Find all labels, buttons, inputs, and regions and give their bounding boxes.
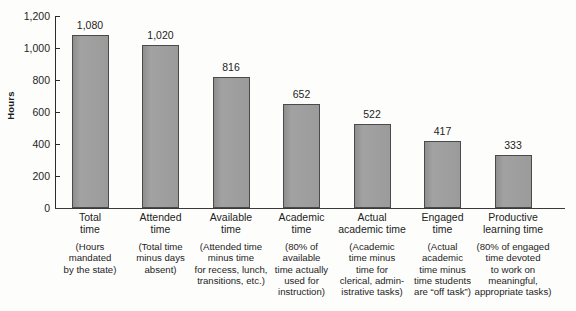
bar [213, 77, 250, 208]
plot-area: 1,0801,020816652522417333 [56, 0, 566, 208]
bar [283, 104, 320, 208]
bar [354, 124, 391, 208]
bar-value-label: 522 [363, 108, 381, 120]
bar-value-label: 333 [504, 139, 522, 151]
bar-value-label: 1,020 [147, 29, 173, 41]
y-axis-tick-mark [55, 144, 60, 145]
y-axis-tick-mark [55, 48, 60, 49]
x-axis-category-labels: Total time(Hours mandated by the state)A… [56, 211, 566, 311]
bar [495, 155, 532, 208]
bar [424, 141, 461, 208]
y-axis-tick-mark [55, 80, 60, 81]
y-axis-tick-mark [55, 16, 60, 17]
bar-value-label: 816 [222, 61, 240, 73]
y-axis-tick-mark [55, 176, 60, 177]
x-axis-category: Productive learning time(80% of engaged … [470, 211, 557, 298]
y-axis-tick-label: 600 [10, 106, 50, 118]
y-axis-tick-labels: 02004006008001,0001,200 [6, 0, 50, 311]
y-axis-tick-label: 0 [10, 202, 50, 214]
bar [72, 35, 109, 208]
y-axis-tick-label: 1,000 [10, 42, 50, 54]
bar-chart: Hours 02004006008001,0001,200 1,0801,020… [0, 0, 576, 311]
bar-value-label: 1,080 [77, 19, 103, 31]
y-axis-tick-label: 400 [10, 138, 50, 150]
category-name: Productive learning time [470, 211, 557, 236]
bar-value-label: 652 [293, 88, 311, 100]
bar-value-label: 417 [434, 125, 452, 137]
y-axis-tick-label: 200 [10, 170, 50, 182]
y-axis-tick-label: 1,200 [10, 10, 50, 22]
bar [142, 45, 179, 208]
y-axis-tick-mark [55, 112, 60, 113]
category-description: (80% of engaged time devoted to work on … [470, 241, 557, 298]
y-axis-tick-label: 800 [10, 74, 50, 86]
